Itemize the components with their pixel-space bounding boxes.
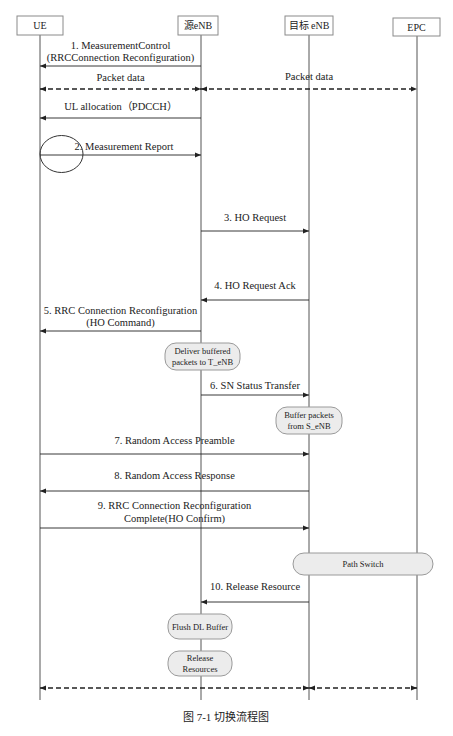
- message-label: 6. SN Status Transfer: [210, 380, 300, 391]
- message-m6: 6. SN Status Transfer: [201, 380, 309, 395]
- message-m7: 7. Random Access Preamble: [40, 435, 309, 454]
- message-pd1: Packet data: [40, 72, 201, 89]
- action-label: Deliver buffered: [174, 346, 231, 356]
- message-label: UL allocation（PDCCH）: [64, 101, 177, 112]
- message-ul: UL allocation（PDCCH）: [40, 101, 201, 118]
- action-label: Resources: [183, 664, 218, 674]
- message-m10: 10. Release Resource: [201, 581, 309, 602]
- message-label: 4. HO Request Ack: [214, 280, 296, 291]
- message-label: Complete(HO Confirm): [124, 513, 226, 525]
- action-label: from S_eNB: [287, 421, 331, 431]
- message-label: 9. RRC Connection Reconfiguration: [98, 500, 252, 511]
- message-label: 10. Release Resource: [210, 581, 300, 592]
- action-flush: Flush DL Buffer: [168, 614, 232, 639]
- message-m3: 3. HO Request: [201, 212, 309, 231]
- action-label: Flush DL Buffer: [172, 622, 228, 632]
- message-m9: 9. RRC Connection ReconfigurationComplet…: [40, 500, 309, 528]
- message-label: 3. HO Request: [224, 212, 286, 223]
- message-m2: 2. Measurement Report: [40, 141, 201, 155]
- action-pathswitch: Path Switch: [293, 553, 433, 575]
- message-label: (HO Command): [86, 317, 155, 329]
- measurement-trigger-ellipse: [40, 136, 83, 173]
- action-release: ReleaseResources: [168, 651, 232, 676]
- action-deliver: Deliver bufferedpackets to T_eNB: [165, 343, 240, 370]
- message-m1: 1. MeasurementControl(RRCConnection Reco…: [40, 40, 201, 66]
- message-label: 8. Random Access Response: [114, 470, 235, 481]
- message-m8: 8. Random Access Response: [40, 470, 309, 491]
- participant-ue: UE: [17, 16, 63, 35]
- action-label: Buffer packets: [284, 410, 334, 420]
- participant-label: 目标 eNB: [289, 20, 330, 31]
- message-label: 7. Random Access Preamble: [114, 435, 234, 446]
- action-label: Release: [187, 653, 214, 663]
- participant-epc: EPC: [393, 18, 440, 36]
- participant-tenb: 目标 eNB: [285, 16, 333, 35]
- handover-sequence-diagram: UE源eNB目标 eNBEPC Deliver bufferedpackets …: [0, 0, 453, 736]
- message-label: (RRCConnection Reconfiguration): [47, 52, 195, 64]
- figure-caption: 图 7-1 切换流程图: [183, 710, 269, 723]
- message-m4: 4. HO Request Ack: [201, 280, 309, 300]
- participant-label: 源eNB: [184, 19, 213, 31]
- message-label: Packet data: [285, 71, 333, 82]
- participant-label: EPC: [407, 22, 426, 33]
- action-label: Path Switch: [343, 559, 385, 569]
- message-label: 5. RRC Connection Reconfiguration: [44, 305, 198, 316]
- participant-senb: 源eNB: [178, 16, 218, 35]
- message-label: Packet data: [96, 72, 144, 83]
- message-m5: 5. RRC Connection Reconfiguration(HO Com…: [40, 305, 201, 331]
- action-label: packets to T_eNB: [172, 357, 234, 367]
- participant-label: UE: [33, 20, 46, 31]
- message-label: 2. Measurement Report: [75, 141, 174, 152]
- message-label: 1. MeasurementControl: [71, 40, 171, 51]
- action-buffer: Buffer packetsfrom S_eNB: [276, 407, 342, 434]
